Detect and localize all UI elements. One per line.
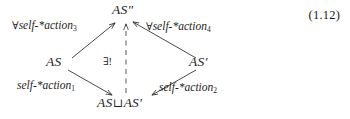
edge-label-bottom-right-text: self-*action (159, 81, 213, 93)
vertex-as-double-prime: AS″ (112, 3, 133, 17)
vertex-as: AS (46, 55, 61, 69)
edge-label-top-right: ∀self-*action4 (146, 21, 211, 34)
vertex-top-decoration: ″ (127, 2, 133, 17)
edge-label-top-left: ∀self-*action3 (12, 20, 77, 33)
edge-label-bottom-right-subscript: 2 (213, 86, 217, 95)
edge-label-exists-unique: ∃! (103, 57, 112, 68)
vertex-bottom-right-term: AS′ (124, 95, 143, 110)
edge-label-top-right-subscript: 4 (207, 25, 211, 34)
forall-icon: ∀ (146, 20, 153, 32)
vertex-top-base: AS (112, 2, 127, 17)
edge-label-bottom-left-subscript: 1 (71, 84, 75, 93)
edge-label-bottom-right: self-*action2 (159, 82, 217, 95)
vertex-left-base: AS (46, 54, 61, 69)
vertex-right-base: AS (189, 54, 204, 69)
arrow-left-to-top (72, 23, 115, 58)
vertex-bottom-left-term: AS (97, 95, 112, 110)
edge-label-bottom-left-text: self-*action (17, 79, 71, 91)
commutative-diagram-figure: AS'' (up-right) --> AS'' (up-left) --> A… (0, 0, 350, 119)
vertex-right-decoration: ′ (204, 54, 207, 69)
edge-label-bottom-left: self-*action1 (17, 80, 75, 93)
forall-icon: ∀ (12, 19, 19, 31)
edge-label-top-right-text: self-*action (153, 20, 207, 32)
edge-label-top-left-subscript: 3 (73, 24, 77, 33)
vertex-as-prime: AS′ (189, 55, 207, 69)
vertex-as-join-as-prime: AS⊔AS′ (97, 96, 142, 110)
equation-number: (1.12) (309, 8, 340, 23)
join-operator-icon: ⊔ (112, 96, 123, 110)
edge-label-top-left-text: self-*action (19, 19, 73, 31)
